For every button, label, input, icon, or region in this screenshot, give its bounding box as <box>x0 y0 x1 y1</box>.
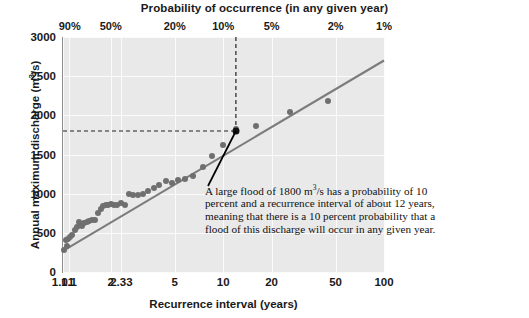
top-tick-1pct: 1% <box>376 20 392 32</box>
y-axis-title: Annual maximum discharge (m3/s) <box>27 35 41 275</box>
top-tick-2pct: 2% <box>328 20 344 32</box>
top-tick-50pct: 50% <box>100 20 122 32</box>
x-tick-5: 5 <box>171 276 177 288</box>
x-axis-title: Recurrence interval (years) <box>63 298 384 310</box>
y-axis-title-tail: /s) <box>29 61 41 74</box>
reference-lines <box>63 37 384 272</box>
plot-area <box>63 37 384 272</box>
top-tick-20pct: 20% <box>164 20 186 32</box>
top-tick-5pct: 5% <box>264 20 280 32</box>
top-tick-10pct: 10% <box>212 20 234 32</box>
x-tick-50: 50 <box>329 276 342 288</box>
top-tick-90pct: 90% <box>59 20 81 32</box>
x-tick-1.1: 1.1 <box>61 276 77 288</box>
x-tick-100: 100 <box>374 276 393 288</box>
gridline-y-0 <box>63 272 384 273</box>
y-axis-title-main: Annual maximum discharge (m <box>29 79 41 250</box>
annotation-part1: A large flood of 1800 m <box>205 185 313 197</box>
top-axis-title: Probability of occurrence (in any given … <box>0 2 529 14</box>
gridline-x-100 <box>384 37 385 272</box>
x-tick-10: 10 <box>217 276 230 288</box>
flood-1800-marker <box>232 128 239 135</box>
x-tick-20: 20 <box>265 276 278 288</box>
chart-figure: Probability of occurrence (in any given … <box>0 0 529 318</box>
x-tick-2.33: 2.33 <box>110 276 132 288</box>
y-axis-title-exponent: 3 <box>27 74 36 78</box>
annotation-text: A large flood of 1800 m3/s has a probabi… <box>205 182 445 235</box>
